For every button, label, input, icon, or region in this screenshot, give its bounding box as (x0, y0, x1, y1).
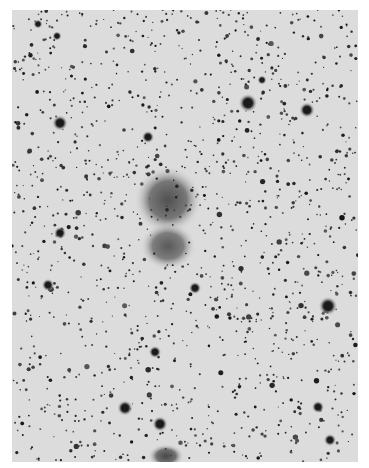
star-field-plate (12, 10, 358, 462)
nebula-lower-blob (140, 222, 196, 270)
nebula-bottom-blob (148, 444, 184, 462)
star-field-image (12, 10, 358, 462)
